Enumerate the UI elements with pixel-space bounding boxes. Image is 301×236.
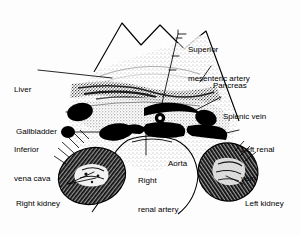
label-line-1: Right kidney (16, 199, 60, 209)
label-line-1: Superior (188, 45, 250, 55)
label-line-1: Splenic vein (223, 112, 266, 122)
sma-lumen-center (158, 116, 162, 120)
label-line-1: Liver (14, 85, 31, 95)
label-line-2: renal artery (138, 205, 178, 215)
label-line-1: Left kidney (245, 199, 284, 209)
label-right-kidney: Right kidney (16, 180, 60, 228)
label-line-1: Inferior (14, 145, 50, 155)
label-left-kidney: Left kidney (245, 180, 284, 228)
label-right-renal-artery: Right renal artery (138, 157, 178, 233)
label-line-1: Left renal (241, 145, 274, 155)
label-line-1: Pancreas (213, 81, 247, 91)
ultrasound-diagram-figure: Superior mesenteric artery Pancreas Live… (0, 0, 301, 236)
label-line-1: Right (138, 176, 178, 186)
label-liver: Liver (14, 66, 31, 114)
